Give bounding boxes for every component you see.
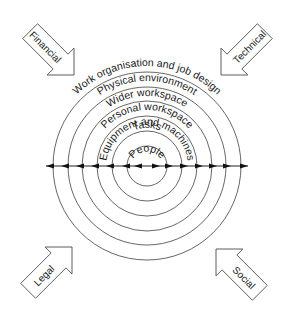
arrow-right-icon [223,164,231,169]
force-arrow-social: Social [203,236,274,307]
ergonomics-layers-diagram: People Tasks Equipment and machines Pers… [0,0,291,321]
arrow-right-icon [180,164,188,169]
arrow-left-icon [106,164,114,169]
force-arrow-technical: Technical [208,18,279,89]
arrow-left-icon [91,164,99,169]
bidirectional-axis [46,164,248,169]
force-arrow-financial: Financial [17,18,88,89]
layer-label-people: People [126,142,169,161]
arrow-right-icon [209,164,217,169]
force-arrow-legal: Legal [15,234,86,305]
arrow-left-icon [61,164,69,169]
arrow-right-icon [152,164,160,169]
arrow-right-icon [165,164,173,169]
arrow-left-icon [76,164,84,169]
arrow-left-icon [134,164,142,169]
arrow-left-icon [46,164,54,169]
arrow-right-icon [195,164,203,169]
arrow-right-icon [240,164,248,169]
arrow-left-icon [122,164,130,169]
